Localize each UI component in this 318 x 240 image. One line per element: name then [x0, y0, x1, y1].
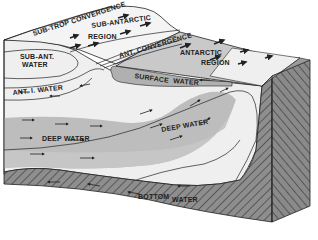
- label-bottom-water: WATER: [172, 196, 198, 203]
- label-sub-ant-water: WATER: [22, 61, 48, 68]
- continental-block-side: [272, 60, 310, 222]
- label-antarctic-region: REGION: [201, 59, 230, 66]
- label-bottom: BOTTOM: [138, 193, 169, 200]
- diagram-canvas: [0, 0, 318, 240]
- ocean-block-diagram: SUB-TROP CONVERGENCE SUB-ANTARCTIC REGIO…: [0, 0, 318, 240]
- label-antarctic: ANTARCTIC: [180, 49, 222, 56]
- label-sub-ant: SUB-ANT.: [20, 53, 54, 60]
- label-sub-antarctic-region: REGION: [88, 33, 117, 40]
- label-deep-water-left: DEEP WATER: [42, 135, 90, 142]
